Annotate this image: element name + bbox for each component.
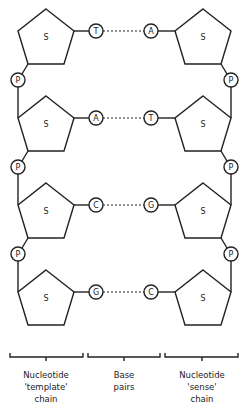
base-right-1: A — [148, 27, 154, 36]
base-right-2: T — [148, 114, 154, 123]
phosphate-label: P — [229, 250, 234, 259]
sugar-label: S — [43, 294, 48, 303]
row-3 — [18, 183, 231, 238]
base-left-1: T — [93, 27, 99, 36]
bracket-sense — [165, 353, 238, 361]
row-4 — [18, 270, 231, 325]
sugar-label: S — [43, 33, 48, 42]
phosphate-label: P — [16, 250, 21, 259]
sugar-label: S — [200, 207, 205, 216]
sugar-label: S — [200, 120, 205, 129]
base-left-3: C — [93, 201, 99, 210]
base-right-4: C — [148, 288, 154, 297]
sugar-label: S — [200, 33, 205, 42]
label-base-pairs: Base pairs — [84, 369, 164, 393]
dna-diagram: S S S S S S S S P P P P P P T A A T C G … — [0, 0, 250, 415]
base-right-3: G — [148, 201, 154, 210]
label-template-chain: Nucleotide 'template' chain — [6, 369, 86, 405]
sugar-label: S — [43, 120, 48, 129]
sugar-label: S — [43, 207, 48, 216]
base-left-4: G — [93, 288, 99, 297]
base-left-2: A — [93, 114, 99, 123]
phosphate-label: P — [16, 163, 21, 172]
phosphate-label: P — [16, 76, 21, 85]
phosphate-label: P — [229, 76, 234, 85]
sugar-label: S — [200, 294, 205, 303]
bracket-base-pairs — [88, 353, 160, 361]
row-1 — [18, 9, 231, 64]
bracket-template — [10, 353, 83, 361]
label-sense-chain: Nucleotide 'sense' chain — [162, 369, 242, 405]
phosphate-label: P — [229, 163, 234, 172]
row-2 — [18, 96, 231, 151]
